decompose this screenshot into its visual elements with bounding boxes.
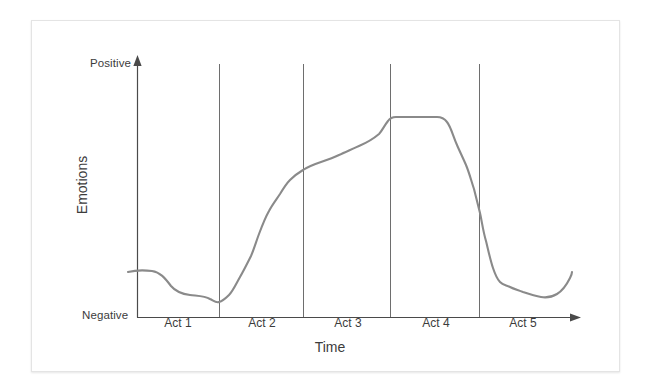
act-label-4: Act 4	[422, 316, 449, 330]
act-label-2: Act 2	[248, 316, 275, 330]
act-label-3: Act 3	[334, 316, 361, 330]
figure-root: Positive Negative Time Emotions Act 1 Ac…	[0, 0, 649, 392]
y-axis-min-label: Negative	[82, 309, 128, 321]
x-axis-title: Time	[315, 339, 346, 355]
act-divider-group	[220, 64, 480, 317]
act-label-1: Act 1	[164, 316, 191, 330]
y-axis-max-label: Positive	[90, 57, 131, 69]
x-axis-arrowhead	[570, 313, 581, 321]
y-axis	[133, 55, 141, 318]
y-axis-title: Emotions	[74, 156, 90, 214]
act-label-5: Act 5	[509, 316, 536, 330]
y-axis-arrowhead	[133, 55, 141, 66]
emotion-curve	[128, 117, 572, 302]
